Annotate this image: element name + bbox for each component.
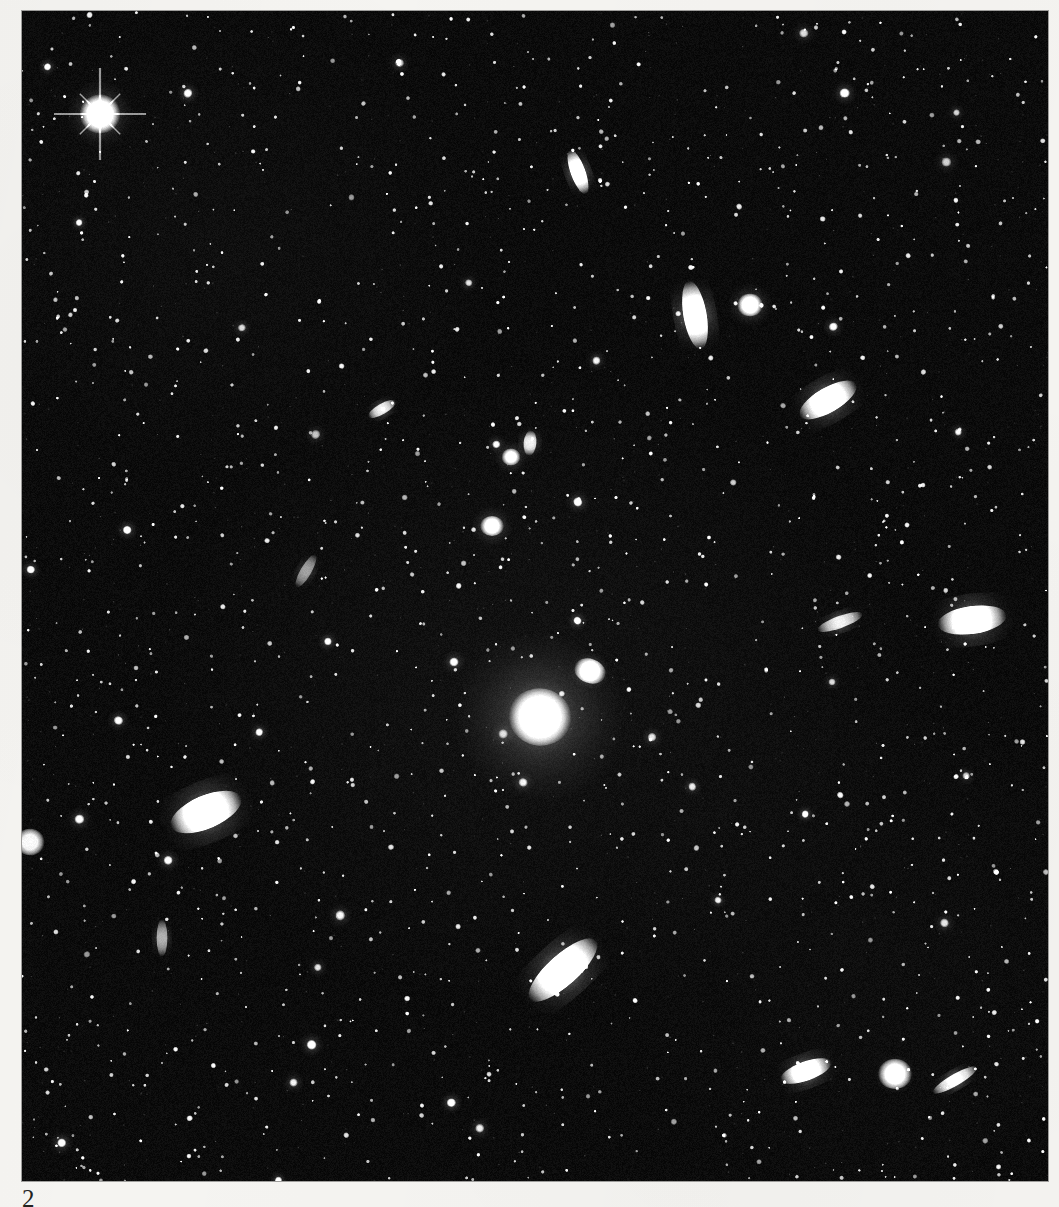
plate-image-frame	[22, 11, 1048, 1181]
astronomical-plate-canvas	[22, 11, 1048, 1181]
page-number: 2	[22, 1186, 35, 1207]
book-page: 2	[0, 0, 1059, 1207]
